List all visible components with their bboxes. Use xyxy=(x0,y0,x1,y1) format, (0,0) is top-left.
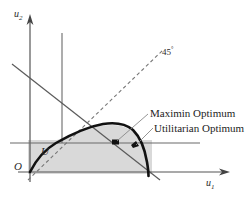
y-axis-label: u2 xyxy=(14,9,23,22)
x-axis-label: u1 xyxy=(206,178,215,191)
origin-label: O xyxy=(14,161,22,172)
figure-canvas xyxy=(0,0,251,208)
utility-possibility-frontier-figure: u2 u1 O U 45° Maximin Optimum Utilitaria… xyxy=(0,0,251,208)
utilitarian-optimum-label: Utilitarian Optimum xyxy=(154,123,244,134)
feasible-set-label: U xyxy=(41,146,49,157)
forty-five-degree-label: 45° xyxy=(162,46,173,57)
maximin-optimum-label: Maximin Optimum xyxy=(150,108,235,119)
